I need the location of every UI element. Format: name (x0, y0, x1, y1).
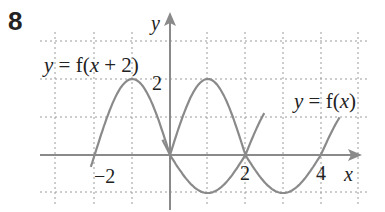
tick-label-x-2: 2 (240, 162, 250, 184)
tick-label-x-4: 4 (316, 162, 326, 184)
legend-f-x-plus-2: y = f(x + 2) (42, 53, 139, 77)
tick-label-y-2: 2 (152, 72, 162, 94)
curve-f-x-plus-2 (91, 79, 264, 167)
legend-f-x: y = f(x) (292, 89, 356, 113)
y-axis-label: y (149, 12, 160, 35)
tick-label-x-neg2: −2 (94, 165, 115, 187)
graph: y x −2 2 4 2 y = f(x + 2) y = f(x) (0, 0, 385, 212)
x-axis-label: x (343, 163, 353, 185)
